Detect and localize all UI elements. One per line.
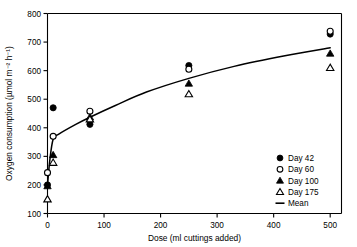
legend-marker-filled-circle — [277, 155, 283, 161]
y-tick-label: 200 — [27, 181, 41, 190]
y-tick-label: 500 — [27, 95, 41, 104]
legend-label: Mean — [288, 199, 309, 208]
x-tick-label: 500 — [323, 221, 337, 230]
data-point-filled-circle — [50, 105, 56, 111]
y-tick-label: 300 — [27, 152, 41, 161]
legend-marker-filled-triangle — [276, 177, 283, 183]
data-point-open-circle — [186, 66, 192, 72]
x-tick-label: 100 — [97, 221, 111, 230]
x-axis-title: Dose (ml cuttings added) — [148, 233, 241, 243]
data-point-open-triangle — [326, 64, 333, 70]
y-tick-label: 600 — [27, 67, 41, 76]
legend-marker-open-circle — [277, 166, 283, 172]
data-point-open-triangle — [185, 90, 192, 96]
legend-label: Day 42 — [288, 154, 314, 163]
data-point-open-circle — [327, 28, 333, 34]
legend-label: Day 60 — [288, 165, 314, 174]
y-axis-title: Oxygen consumption (µmol m⁻² h⁻¹) — [4, 46, 14, 181]
scatter-plot: 1002003004005006007008000100200300400500… — [0, 0, 357, 247]
data-point-open-circle — [45, 170, 51, 176]
legend-label: Day 175 — [288, 188, 319, 197]
y-tick-label: 100 — [27, 210, 41, 219]
legend: Day 42Day 60Day 100Day 175Mean — [276, 154, 319, 208]
ticks-layer — [44, 14, 331, 218]
figure-container: 1002003004005006007008000100200300400500… — [0, 0, 357, 247]
x-tick-label: 0 — [45, 221, 50, 230]
legend-marker-open-triangle — [276, 188, 283, 194]
x-tick-label: 400 — [267, 221, 281, 230]
y-tick-label: 800 — [27, 10, 41, 19]
x-tick-label: 300 — [210, 221, 224, 230]
data-point-open-circle — [50, 133, 56, 139]
x-tick-label: 200 — [154, 221, 168, 230]
data-point-open-triangle — [44, 196, 51, 202]
data-point-filled-triangle — [185, 80, 192, 86]
legend-label: Day 100 — [288, 177, 319, 186]
y-tick-label: 400 — [27, 124, 41, 133]
data-point-filled-triangle — [326, 50, 333, 56]
y-tick-label: 700 — [27, 38, 41, 47]
